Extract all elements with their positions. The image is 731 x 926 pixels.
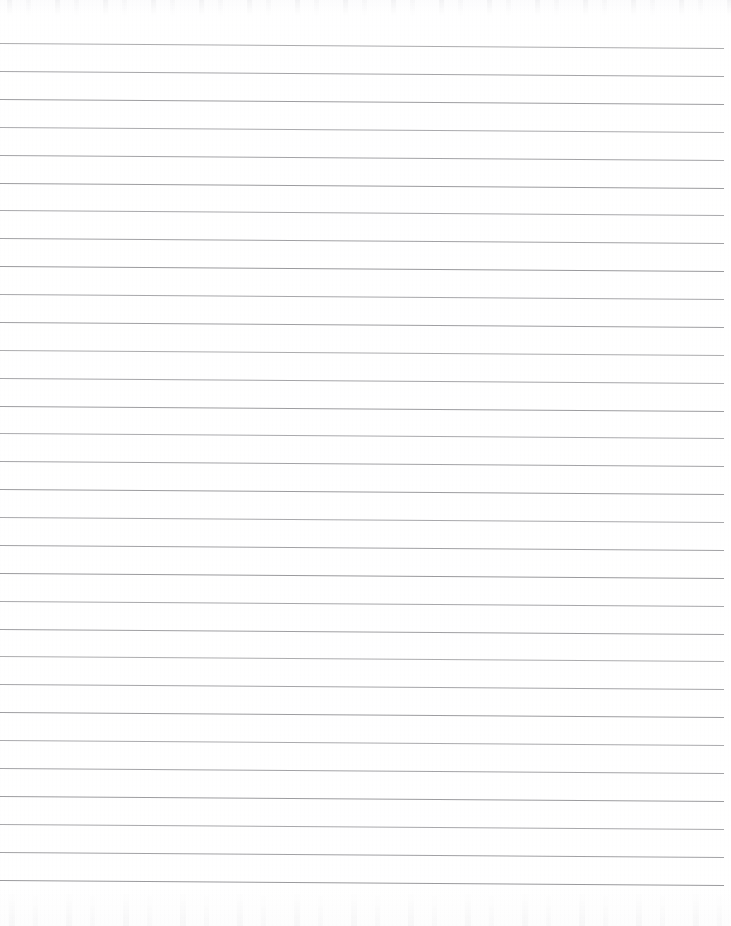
- ruled-line: [0, 433, 724, 439]
- ruled-line: [0, 266, 724, 272]
- ruled-line: [0, 824, 724, 830]
- ruled-line: [0, 461, 724, 467]
- ruled-line: [0, 880, 724, 886]
- ruled-line: [0, 350, 724, 356]
- ruled-line: [0, 601, 724, 607]
- ruled-line: [0, 378, 724, 384]
- ruled-line: [0, 183, 724, 189]
- ruled-line: [0, 127, 724, 133]
- ruled-line: [0, 238, 724, 244]
- ruled-line: [0, 294, 724, 300]
- ruled-line: [0, 629, 724, 635]
- ruled-line: [0, 545, 724, 551]
- ruled-line: [0, 155, 724, 161]
- scanned-page: [0, 0, 731, 926]
- ruled-line: [0, 684, 724, 690]
- ruled-line: [0, 99, 724, 105]
- ruled-line: [0, 573, 724, 579]
- ruled-line: [0, 740, 724, 746]
- ruled-line: [0, 768, 724, 774]
- ruled-line: [0, 712, 724, 718]
- ruled-line: [0, 796, 724, 802]
- ruled-line: [0, 489, 724, 495]
- ruled-line: [0, 43, 724, 49]
- ruled-line: [0, 852, 724, 858]
- ruled-lines-layer: [0, 0, 731, 926]
- ruled-line: [0, 71, 724, 77]
- ruled-line: [0, 322, 724, 328]
- ruled-line: [0, 406, 724, 412]
- ruled-line: [0, 517, 724, 523]
- ruled-line: [0, 210, 724, 216]
- ruled-line: [0, 656, 724, 662]
